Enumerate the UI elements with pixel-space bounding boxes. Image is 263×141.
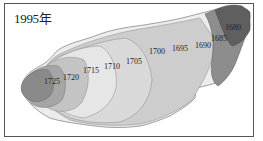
isoline-label: 1710 — [104, 62, 120, 71]
isoline-label: 1700 — [149, 47, 165, 56]
isoline-label: 1725 — [44, 77, 60, 86]
isochrone-map: 1725 1720 1715 1710 1705 1700 1695 1690 … — [0, 0, 263, 141]
isoline-label: 1715 — [83, 66, 99, 75]
isoline-label: 1720 — [63, 73, 79, 82]
isoline-label: 1695 — [172, 44, 188, 53]
isoline-label: 1690 — [195, 41, 211, 50]
isoline-label: 1680 — [225, 23, 241, 32]
isoline-label: 1685 — [211, 34, 227, 43]
isoline-label: 1705 — [126, 57, 142, 66]
